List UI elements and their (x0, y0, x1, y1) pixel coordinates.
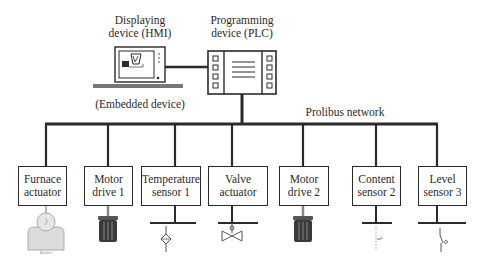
node-label-line2: sensor 2 (357, 186, 395, 199)
node-label-line2: sensor 1 (152, 186, 190, 199)
motor-icon-1 (98, 216, 118, 242)
network-label: Prolibus network (290, 106, 400, 119)
hmi-title: Displaying device (HMI) (100, 14, 180, 40)
node-label-line2: sensor 3 (423, 186, 461, 199)
node-temperature-sensor-1: Temperature sensor 1 (141, 166, 201, 206)
boiler-caption: Boiler (31, 250, 61, 256)
content-sensor-icon (376, 226, 382, 250)
network-diagram: Displaying device (HMI) (Embedded device… (0, 0, 484, 265)
node-motor-drive-2: Motor drive 2 (279, 166, 329, 206)
valve-icon (222, 223, 242, 241)
node-label-line1: Content (358, 173, 394, 186)
plc-icon (208, 51, 276, 94)
level-switch-icon (440, 228, 448, 252)
hmi-title-line2: device (HMI) (100, 27, 180, 40)
hmi-title-line1: Displaying (100, 14, 180, 27)
node-valve-actuator: Valve actuator (208, 166, 268, 206)
node-label-line2: actuator (219, 186, 256, 199)
node-label-line2: drive 1 (92, 186, 124, 199)
node-content-sensor-2: Content sensor 2 (352, 166, 401, 206)
node-label-line1: Valve (225, 173, 251, 186)
node-motor-drive-1: Motor drive 1 (84, 166, 133, 206)
node-label-line1: Temperature (142, 173, 200, 186)
node-label-line1: Motor (94, 173, 123, 186)
hmi-caption: (Embedded device) (85, 98, 195, 111)
motor-icon-2 (293, 216, 313, 242)
node-furnace-actuator: Furnace actuator (18, 166, 67, 206)
temperature-sensor-icon (161, 226, 171, 252)
node-label-line1: Level (429, 173, 455, 186)
plc-title: Programming device (PLC) (200, 14, 284, 40)
node-label-line2: actuator (24, 186, 61, 199)
node-level-sensor-3: Level sensor 3 (418, 166, 467, 206)
node-label-line1: Furnace (24, 173, 61, 186)
plc-title-line2: device (PLC) (200, 27, 284, 40)
node-label-line2: drive 2 (288, 186, 320, 199)
node-label-line1: Motor (290, 173, 319, 186)
boiler-icon (28, 213, 64, 250)
plc-title-line1: Programming (200, 14, 284, 27)
